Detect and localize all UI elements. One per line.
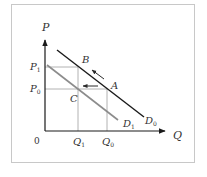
q1-label: Q1 [73,136,85,148]
origin-label: 0 [34,136,40,146]
y-axis-label: P [41,21,50,34]
p0-label: P0 [29,83,41,95]
point-b-label: B [81,54,89,65]
point-a-label: A [110,80,118,91]
p1-label: P1 [29,61,41,73]
d1-curve-label: D1 [122,118,135,130]
point-c-label: C [70,93,78,104]
d0-curve-label: D0 [144,115,157,127]
x-axis-label: Q [173,129,182,142]
q0-label: Q0 [102,136,114,148]
diagram-canvas: P Q 0 P1 P0 Q1 Q0 D1 D0 B A C [0,0,207,177]
